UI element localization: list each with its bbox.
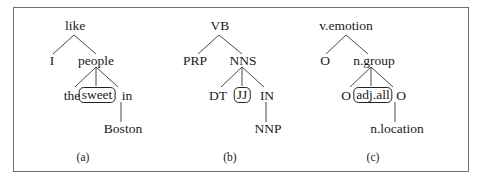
caption-c: (c) <box>367 151 380 163</box>
tree-a-leaf: Boston <box>104 121 142 136</box>
tree-c-root: v.emotion <box>319 18 373 33</box>
tree-a-root: like <box>65 18 85 33</box>
tree-a-child-2-highlighted: sweet <box>79 87 116 103</box>
tree-c-child-1: O <box>341 88 351 103</box>
tree-a-child-3: in <box>122 88 133 103</box>
tree-b-right: NNS <box>229 53 256 68</box>
tree-b-child-1: DT <box>209 88 227 103</box>
tree-c-child-2-highlighted: adj.all <box>353 87 392 103</box>
tree-a-left: I <box>50 53 55 68</box>
tree-c-child-3: O <box>396 88 406 103</box>
tree-b-leaf: NNP <box>254 121 281 136</box>
tree-b-child-3: IN <box>260 88 274 103</box>
tree-c-left: O <box>320 53 330 68</box>
tree-b-child-2-highlighted: JJ <box>234 87 251 103</box>
tree-b-left: PRP <box>183 53 207 68</box>
tree-a-right: people <box>78 53 114 68</box>
tree-b-root: VB <box>211 18 230 33</box>
caption-a: (a) <box>77 151 90 163</box>
tree-c-right: n.group <box>353 53 395 68</box>
caption-b: (b) <box>223 151 236 163</box>
tree-c-leaf: n.location <box>370 121 424 136</box>
